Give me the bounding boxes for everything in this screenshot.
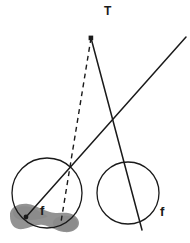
circle-right — [97, 162, 159, 224]
focus-label-f-right: f — [160, 205, 164, 218]
apex-point-marker — [89, 36, 94, 41]
geometry-figure: T f f — [0, 0, 190, 243]
focus-point-marker-left — [24, 215, 29, 220]
apex-label-T: T — [104, 5, 111, 17]
focus-label-f-left: f — [40, 204, 44, 217]
dashed-line-from-apex — [61, 38, 91, 222]
solid-line-diagonal — [26, 37, 186, 217]
